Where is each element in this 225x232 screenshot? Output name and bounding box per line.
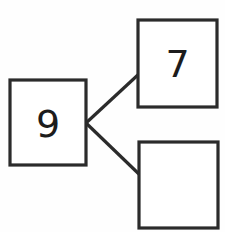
connector-whole-to-bottom-part (86, 123, 141, 176)
whole-box-label: 9 (36, 102, 60, 146)
diagram-canvas: 9 7 (0, 0, 225, 232)
part-box-top-label: 7 (165, 42, 189, 86)
part-box-bottom[interactable] (139, 142, 218, 228)
number-bond-diagram: 9 7 (0, 0, 225, 232)
connector-whole-to-top-part (86, 73, 140, 123)
